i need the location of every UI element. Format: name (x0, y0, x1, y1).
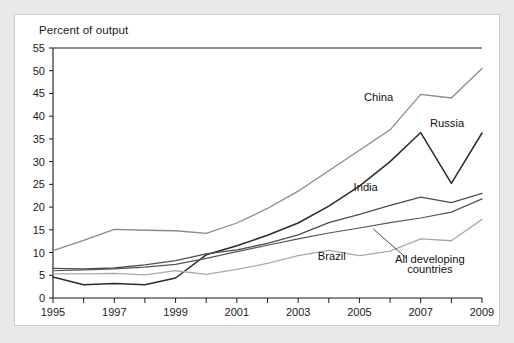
chart-card: Percent of output 0510152025303540455055… (14, 14, 500, 326)
line-chart-svg: 0510152025303540455055 19951997199920012… (15, 15, 501, 327)
y-tick-label: 5 (39, 269, 45, 281)
series-annotation: India (354, 181, 379, 193)
y-tick-label: 15 (33, 224, 45, 236)
x-tick-label: 2001 (225, 306, 249, 318)
series-annotation: China (364, 91, 394, 103)
figure-root: Percent of output 0510152025303540455055… (0, 0, 514, 343)
series-annotation: Brazil (318, 250, 346, 262)
x-axis-ticks: 19951997199920012003200520072009 (41, 298, 494, 318)
x-tick-label: 2003 (286, 306, 310, 318)
plot-area: 0510152025303540455055 19951997199920012… (15, 15, 501, 327)
y-tick-label: 45 (33, 87, 45, 99)
series-annotations: ChinaRussiaIndiaBrazilAll developingcoun… (318, 91, 465, 274)
series-annotation: countries (407, 263, 453, 275)
y-tick-label: 40 (33, 110, 45, 122)
y-tick-label: 0 (39, 292, 45, 304)
series-annotation: Russia (430, 117, 465, 129)
y-tick-label: 20 (33, 201, 45, 213)
y-tick-label: 35 (33, 133, 45, 145)
y-tick-label: 50 (33, 65, 45, 77)
x-tick-label: 1995 (41, 306, 65, 318)
x-tick-label: 2007 (408, 306, 432, 318)
series-lines (53, 68, 482, 284)
x-tick-label: 1997 (102, 306, 126, 318)
y-axis-ticks: 0510152025303540455055 (33, 42, 53, 304)
x-tick-label: 2009 (470, 306, 494, 318)
x-tick-label: 1999 (163, 306, 187, 318)
y-tick-label: 55 (33, 42, 45, 54)
y-tick-label: 30 (33, 156, 45, 168)
y-tick-label: 25 (33, 178, 45, 190)
x-tick-label: 2005 (347, 306, 371, 318)
series-line-china (53, 68, 482, 250)
y-tick-label: 10 (33, 247, 45, 259)
